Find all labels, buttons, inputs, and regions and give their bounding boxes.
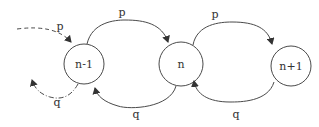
edge-n-minus-1-to-prev: q [32,80,78,109]
arrow-icon [87,20,168,44]
node-n-minus-1: n-1 [64,44,104,84]
diagram-svg: n-1 n n+1 p q p q [0,0,319,127]
arrow-icon [194,81,274,102]
edge-n-minus-1-to-n: p [87,6,168,44]
edge-n-to-n-plus-1: p [193,8,272,45]
edge-label: p [211,8,218,21]
edge-label: p [56,20,63,33]
edge-n-plus-1-to-n: q [194,81,274,121]
edge-label: q [53,96,60,109]
edge-label: q [132,108,139,121]
edge-n-to-n-minus-1: q [95,86,176,121]
node-label: n [177,58,184,71]
edge-prev-to-n-minus-1: p [17,20,71,42]
node-n-plus-1: n+1 [271,46,311,86]
state-diagram: n-1 n n+1 p q p q [0,0,319,127]
node-n: n [159,42,203,86]
arrow-icon [193,22,272,45]
node-label: n+1 [279,60,302,73]
node-label: n-1 [75,58,93,71]
edge-label: p [118,6,125,19]
arrow-icon [95,86,176,108]
edge-label: q [232,108,239,121]
